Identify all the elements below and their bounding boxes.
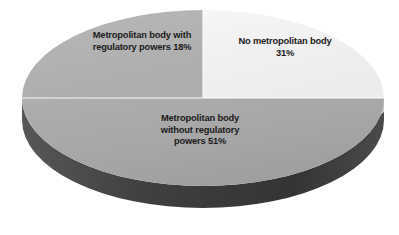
slice-label-without-regulatory-powers: Metropolitan body without regulatory pow… xyxy=(135,113,265,148)
slice-top-with-regulatory xyxy=(22,10,203,98)
slice-label-with-regulatory-powers: Metropolitan body with regulatory powers… xyxy=(79,30,205,53)
slice-label-no-metropolitan-body: No metropolitan body 31% xyxy=(226,36,344,59)
pie-chart: Metropolitan body with regulatory powers… xyxy=(0,0,399,235)
